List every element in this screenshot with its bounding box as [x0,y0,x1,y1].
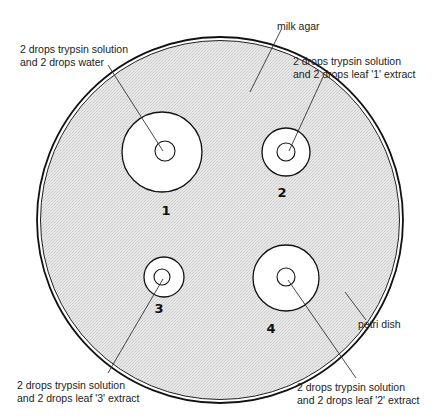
well-number-3: 3 [154,301,163,316]
well-number-1: 1 [161,203,170,218]
well-number-2: 2 [277,185,286,200]
label-well-1-line2: and 2 drops water [20,56,128,69]
label-well-4: 2 drops trypsin solution and 2 drops lea… [297,381,420,406]
label-well-1-line1: 2 drops trypsin solution [20,43,128,56]
label-well-3-line2: and 2 drops leaf '3' extract [17,392,140,405]
petri-dish [37,37,403,403]
label-well-4-line1: 2 drops trypsin solution [297,381,420,394]
label-well-2: 2 drops trypsin solution and 2 drops lea… [293,55,416,80]
label-well-2-line2: and 2 drops leaf '1' extract [293,68,416,81]
label-well-2-line1: 2 drops trypsin solution [293,55,416,68]
label-well-4-line2: and 2 drops leaf '2' extract [297,394,420,407]
well-number-4: 4 [266,321,275,336]
well-4 [253,245,319,311]
label-well-3-line1: 2 drops trypsin solution [17,379,140,392]
label-milk-agar: milk agar [277,20,320,33]
label-well-1: 2 drops trypsin solution and 2 drops wat… [20,43,128,68]
well-2 [262,128,310,176]
well-3 [144,257,184,297]
label-well-3: 2 drops trypsin solution and 2 drops lea… [17,379,140,404]
label-petri-dish: petri dish [358,318,401,331]
well-1 [122,112,202,192]
